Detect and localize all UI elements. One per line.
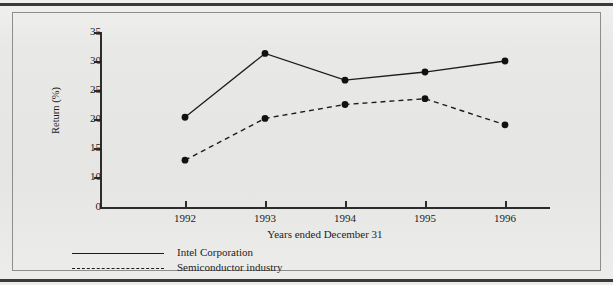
series-markers-intel bbox=[182, 50, 509, 121]
figure-page: 35 30 25 20 15 10 0 1992 bbox=[0, 0, 613, 285]
data-point bbox=[502, 121, 509, 128]
legend-label: Semiconductor industry bbox=[177, 261, 282, 273]
legend-swatch-dashed bbox=[72, 268, 164, 269]
data-point bbox=[502, 58, 509, 65]
data-point bbox=[342, 101, 349, 108]
data-point bbox=[182, 114, 189, 121]
legend-item-intel: Intel Corporation bbox=[72, 246, 402, 261]
data-point bbox=[182, 157, 189, 164]
legend-swatch-solid bbox=[72, 253, 164, 254]
data-point bbox=[262, 115, 269, 122]
data-point bbox=[262, 50, 269, 57]
data-point bbox=[342, 77, 349, 84]
legend: Intel Corporation Semiconductor industry bbox=[72, 246, 402, 276]
series-line-semiconductor bbox=[185, 99, 505, 160]
data-point bbox=[422, 69, 429, 76]
series-markers-semiconductor bbox=[182, 95, 509, 163]
series-plot-area bbox=[0, 0, 613, 285]
legend-item-semiconductor: Semiconductor industry bbox=[72, 261, 402, 276]
legend-label: Intel Corporation bbox=[177, 246, 253, 258]
data-point bbox=[422, 95, 429, 102]
line-chart: 35 30 25 20 15 10 0 1992 bbox=[0, 0, 613, 285]
